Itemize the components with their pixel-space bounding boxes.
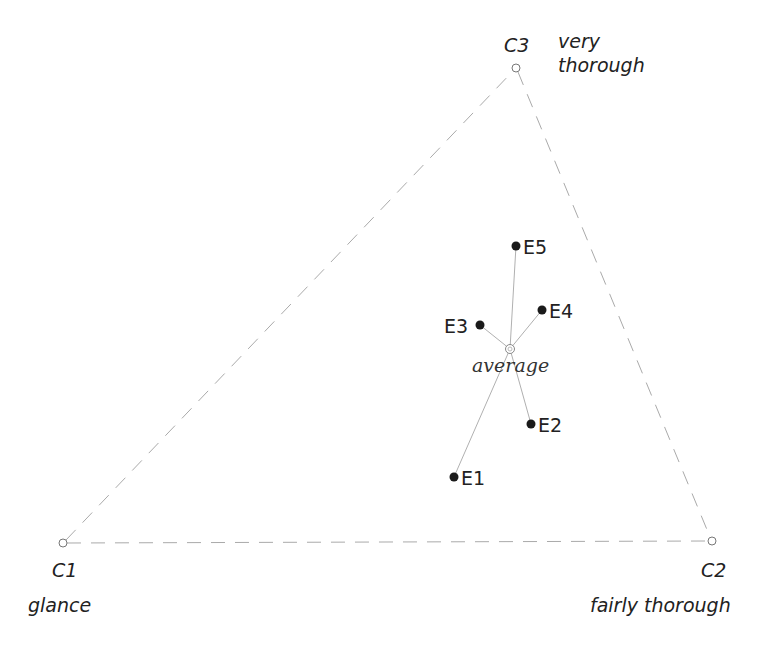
corner-c3-marker (512, 64, 520, 72)
edge-c1-c3 (66, 71, 513, 540)
corner-c1-label: C1 (52, 559, 77, 581)
spoke-e4 (510, 310, 542, 349)
edge-c1-c2 (67, 541, 708, 543)
corner-c2-description: fairly thorough (590, 594, 731, 616)
expert-e5-label: E5 (523, 236, 547, 258)
spoke-e3 (480, 325, 510, 349)
corner-c3-description-line2: thorough (558, 54, 645, 76)
expert-e4-label: E4 (549, 300, 573, 322)
expert-e1-point (450, 473, 459, 482)
corner-c1-marker (59, 539, 67, 547)
expert-e2-point (527, 420, 536, 429)
expert-e4-point (538, 306, 547, 315)
expert-e1-label: E1 (461, 467, 485, 489)
corner-c2-label: C2 (701, 559, 726, 581)
corner-c1-description: glance (28, 594, 91, 616)
expert-e3-label: E3 (444, 315, 468, 337)
average-label: average (472, 354, 549, 376)
average-marker (506, 345, 515, 354)
ternary-diagram: E1 E2 E3 E4 E5 average C3 very thorough … (0, 0, 774, 651)
edge-c3-c2 (518, 72, 710, 537)
expert-e5-point (512, 242, 521, 251)
expert-e3-point (476, 321, 485, 330)
triangle-edges (66, 71, 710, 543)
corner-c2-marker (708, 537, 716, 545)
corner-c3-label: C3 (504, 34, 529, 56)
corner-c3-description-line1: very (558, 30, 601, 52)
expert-e2-label: E2 (538, 414, 562, 436)
spoke-e5 (510, 246, 516, 349)
